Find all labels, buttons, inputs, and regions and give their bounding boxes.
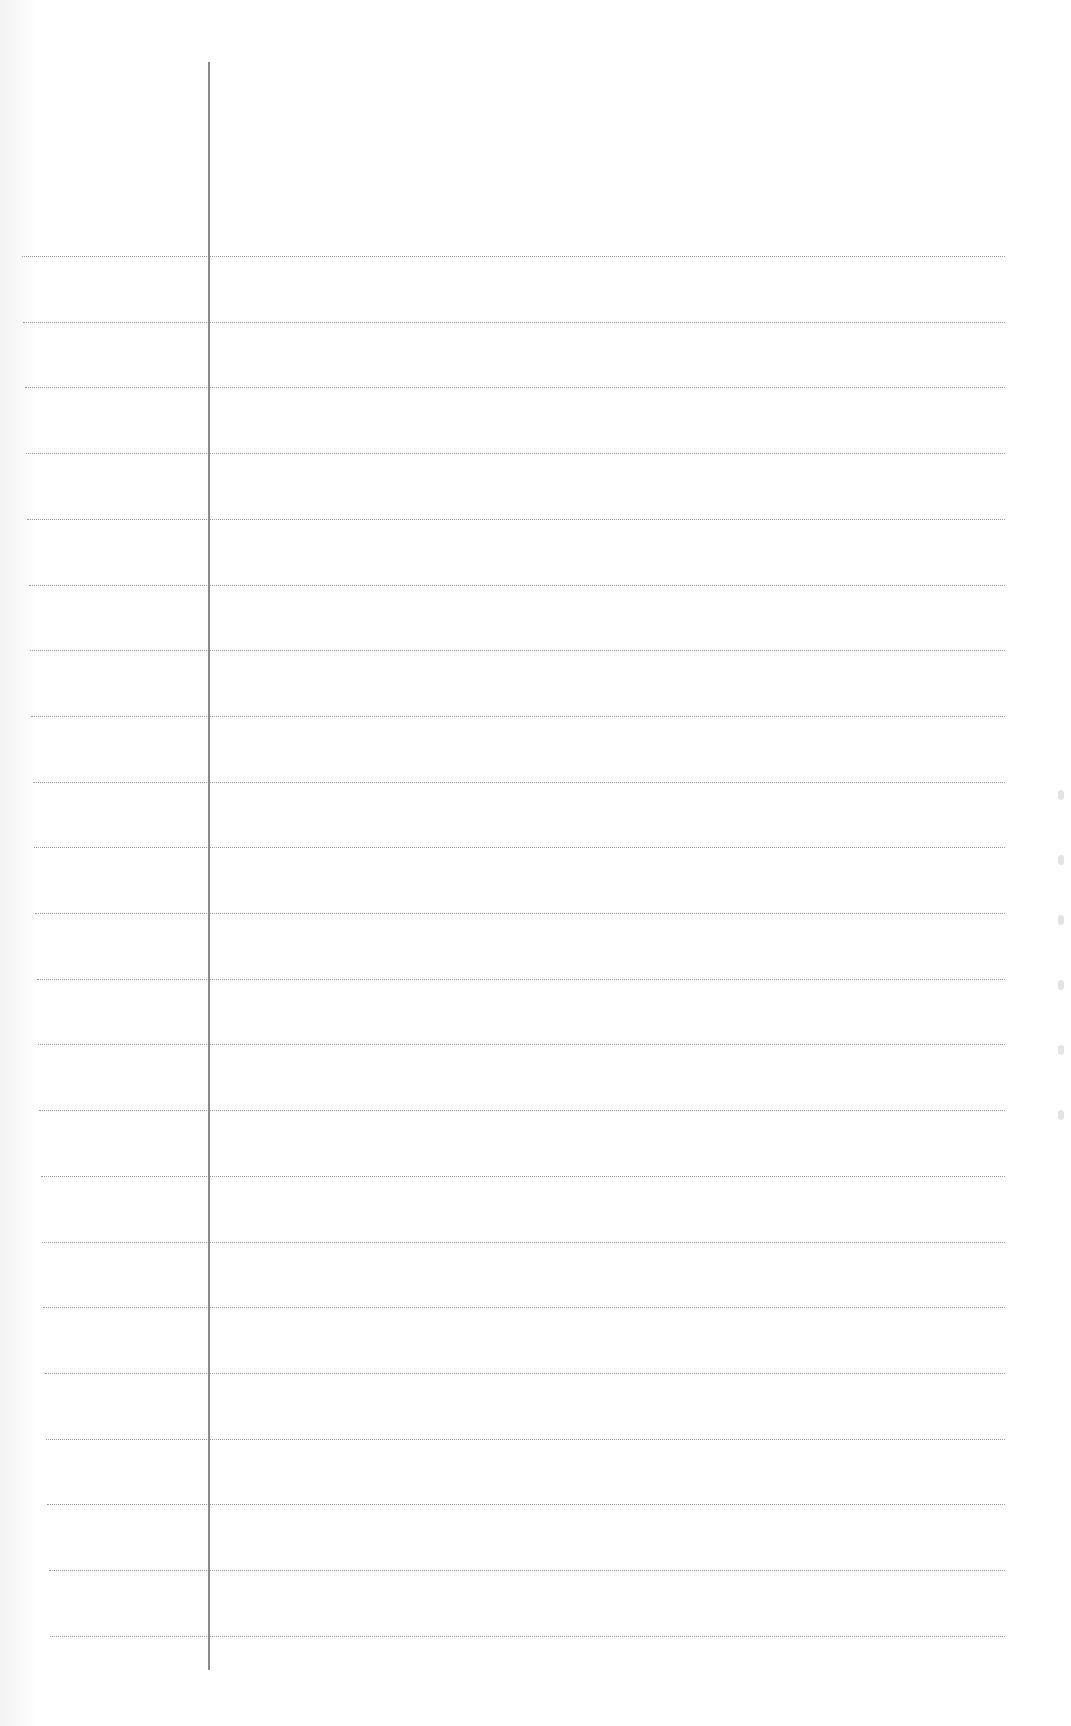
ruled-line xyxy=(43,1307,1005,1308)
ruled-line xyxy=(25,387,1005,388)
ruled-line xyxy=(38,1044,1005,1045)
ruled-line xyxy=(37,979,1005,980)
bleed-mark xyxy=(1058,915,1064,925)
ruled-line xyxy=(23,322,1005,323)
ruled-line xyxy=(31,716,1005,717)
bleed-mark xyxy=(1058,980,1064,990)
ruled-line xyxy=(46,1439,1005,1440)
ruled-line xyxy=(42,1242,1005,1243)
bleed-mark xyxy=(1058,855,1064,865)
bleed-mark xyxy=(1058,1045,1064,1055)
bleed-mark xyxy=(1058,1110,1064,1120)
ruled-line xyxy=(30,650,1005,651)
ruled-line xyxy=(26,453,1005,454)
page-edge-shadow xyxy=(0,0,40,1726)
bleed-mark xyxy=(1058,790,1064,800)
ruled-line xyxy=(45,1373,1005,1374)
ruled-line xyxy=(47,1504,1005,1505)
ruled-line xyxy=(22,256,1005,257)
margin-line xyxy=(208,62,210,1670)
ruled-line xyxy=(34,847,1005,848)
ruled-line xyxy=(39,1110,1005,1111)
ruled-line xyxy=(35,913,1005,914)
ruled-line xyxy=(49,1570,1005,1571)
ruled-line xyxy=(41,1176,1005,1177)
ruled-line xyxy=(50,1636,1005,1637)
ruled-line xyxy=(33,782,1005,783)
ruled-line xyxy=(27,519,1005,520)
ruled-line xyxy=(29,585,1005,586)
